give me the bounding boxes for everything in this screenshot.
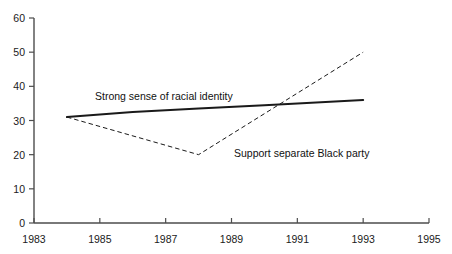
y-axis-ticks [29,18,34,223]
x-axis-tick-label: 1985 [70,234,130,245]
series-line-strong-sense-of-racial-identity [67,100,363,117]
x-axis-tick-label: 1983 [4,234,64,245]
x-axis-tick-label: 1993 [333,234,393,245]
y-axis-tick-label: 20 [0,150,25,161]
x-axis-tick-label: 1991 [267,234,327,245]
x-axis-tick-label: 1989 [202,234,262,245]
y-axis-tick-label: 60 [0,13,25,24]
series-annotation-strong-sense-of-racial-identity: Strong sense of racial identity [95,91,233,102]
x-axis-tick-label: 1995 [399,234,452,245]
line-chart: 0102030405060 19831985198719891991199319… [0,0,452,254]
chart-plot-area [0,0,452,254]
y-axis-tick-label: 0 [0,218,25,229]
y-axis-tick-label: 30 [0,116,25,127]
series-line-support-separate-black-party [67,52,363,155]
y-axis-tick-label: 10 [0,184,25,195]
x-axis-ticks [34,218,429,223]
series-annotation-support-separate-black-party: Support separate Black party [234,148,369,159]
x-axis-tick-label: 1987 [136,234,196,245]
y-axis-tick-label: 40 [0,81,25,92]
y-axis-tick-label: 50 [0,47,25,58]
